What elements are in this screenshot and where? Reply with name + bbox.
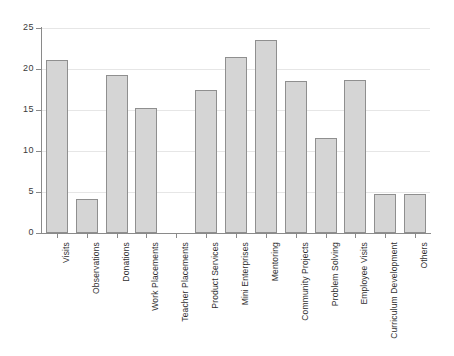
y-axis-tick-label: 0 [4, 227, 34, 237]
y-axis-tick-label: 5 [4, 186, 34, 196]
x-axis-tick-label: Employee Visits [359, 242, 369, 305]
x-axis-tick-label: Observations [91, 242, 101, 294]
y-axis-tick-label: 20 [4, 63, 34, 73]
x-axis-tick-label: Mentoring [270, 242, 280, 281]
x-axis-tick-label: Curriculum Development [389, 242, 399, 339]
bar[interactable] [255, 40, 277, 233]
x-axis-tick-mark [296, 234, 297, 238]
x-axis-tick-label: Community Projects [300, 242, 310, 321]
x-axis-tick-label: Problem Solving [330, 242, 340, 306]
y-axis-tick-mark [36, 110, 42, 111]
x-axis-tick-label: Mini Enterprises [240, 242, 250, 305]
y-axis-tick-mark [36, 233, 42, 234]
bar-chart: 0510152025 VisitsObservationsDonationsWo… [0, 0, 454, 356]
x-axis-tick-label: Donations [121, 242, 131, 282]
x-axis-tick-mark [117, 234, 118, 238]
y-axis-tick-labels: 0510152025 [0, 0, 34, 356]
bar[interactable] [285, 81, 307, 233]
x-axis-tick-label: Visits [61, 242, 71, 263]
bar[interactable] [404, 194, 426, 233]
gridline [42, 28, 430, 29]
x-axis-tick-label: Product Services [210, 242, 220, 309]
plot-area [42, 28, 430, 233]
bar[interactable] [344, 80, 366, 233]
bar[interactable] [46, 60, 68, 233]
y-axis-tick-mark [36, 69, 42, 70]
y-axis-tick-label: 15 [4, 104, 34, 114]
bar[interactable] [76, 199, 98, 233]
y-axis-tick-label: 10 [4, 145, 34, 155]
y-axis-line [41, 27, 42, 234]
y-axis-tick-mark [36, 192, 42, 193]
x-axis-tick-label: Work Placements [150, 242, 160, 311]
x-axis-tick-mark [326, 234, 327, 238]
x-axis-tick-mark [146, 234, 147, 238]
x-axis-tick-label: Others [419, 242, 429, 268]
x-axis-tick-mark [266, 234, 267, 238]
bar[interactable] [225, 57, 247, 233]
x-axis-tick-mark [385, 234, 386, 238]
x-axis-tick-mark [87, 234, 88, 238]
y-axis-tick-mark [36, 28, 42, 29]
bar[interactable] [135, 108, 157, 233]
x-axis-tick-mark [355, 234, 356, 238]
bar[interactable] [374, 194, 396, 233]
bar[interactable] [106, 75, 128, 233]
x-axis-tick-mark [415, 234, 416, 238]
bar[interactable] [195, 90, 217, 233]
x-axis-tick-mark [176, 234, 177, 238]
x-axis-tick-mark [57, 234, 58, 238]
bar[interactable] [315, 138, 337, 233]
x-axis-tick-label: Teacher Placements [180, 242, 190, 322]
y-axis-tick-mark [36, 151, 42, 152]
y-axis-tick-label: 25 [4, 22, 34, 32]
x-axis-tick-mark [236, 234, 237, 238]
x-axis-tick-mark [206, 234, 207, 238]
